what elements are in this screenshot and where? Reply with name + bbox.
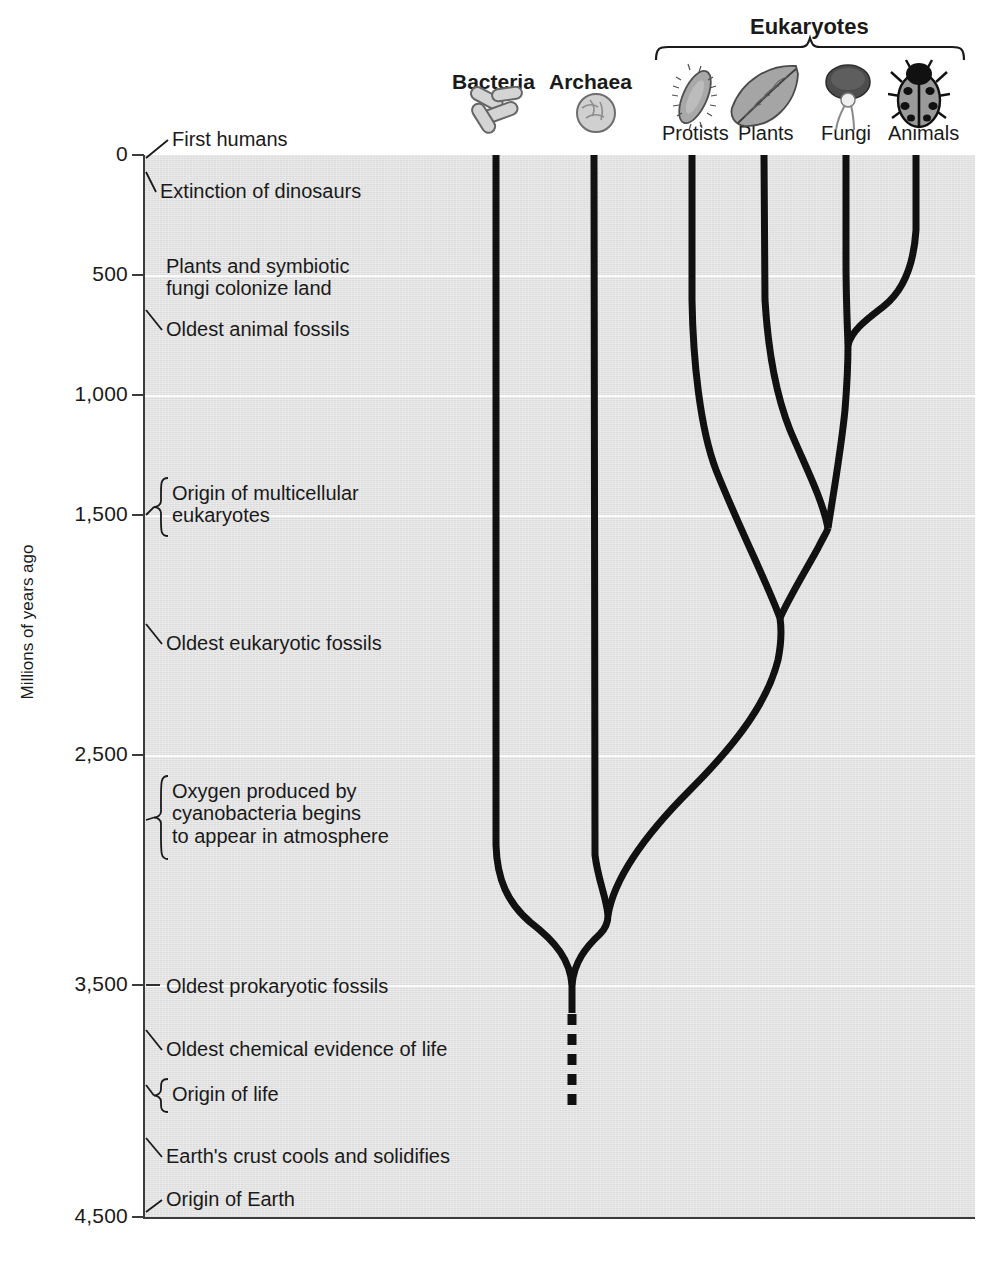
event-leader-line xyxy=(146,624,162,644)
event-leader-line xyxy=(146,140,168,158)
event-connector-group xyxy=(146,140,168,1212)
event-brace xyxy=(154,1079,168,1112)
archaea-eukaryote-stem xyxy=(572,915,608,985)
event-leader-line xyxy=(146,507,154,515)
event-brace xyxy=(154,478,168,536)
plants-fungi-animals-stem xyxy=(780,528,828,618)
event-leader-line xyxy=(146,1138,162,1157)
event-leader-line xyxy=(146,1200,162,1212)
event-leader-line xyxy=(146,1030,162,1050)
plants-branch xyxy=(764,155,828,528)
animals-branch xyxy=(848,155,916,345)
event-leader-line xyxy=(146,818,154,821)
event-brace xyxy=(154,776,168,859)
eukaryote-stem xyxy=(608,618,781,915)
event-leader-line xyxy=(146,172,156,192)
event-leader-line xyxy=(146,1085,154,1096)
event-leader-line xyxy=(146,310,162,330)
fungi-branch xyxy=(846,155,848,345)
fungi-animals-stem xyxy=(828,345,848,528)
eukaryotes-bracket xyxy=(656,38,964,60)
bacteria-branch xyxy=(496,155,572,985)
tree-and-connectors xyxy=(0,0,1008,1267)
archaea-branch xyxy=(594,155,608,915)
tree-branches xyxy=(496,155,916,1105)
phylogenetic-timeline-figure: 05001,0001,5002,5003,5004,500 Millions o… xyxy=(0,0,1008,1267)
